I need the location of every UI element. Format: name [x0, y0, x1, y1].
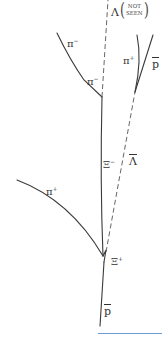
label-xi-plus: Ξ+	[111, 256, 123, 267]
label-antiproton-right: p	[152, 59, 159, 70]
track-pi-minus	[57, 33, 102, 97]
track-antilambda	[106, 92, 135, 252]
track-pi-plus-left	[17, 180, 103, 256]
label-pi-plus-left: π+	[46, 186, 58, 197]
label-xi-minus: Ξ−	[103, 159, 115, 170]
not-text: NOT	[126, 3, 143, 10]
track-antiproton-right	[135, 35, 153, 92]
label-antiproton-incoming: p	[104, 306, 111, 317]
left-paren: (	[120, 1, 125, 19]
bottom-rule	[98, 333, 162, 334]
track-lambda-not-seen	[102, 0, 108, 97]
label-lambda: Λ	[111, 7, 119, 18]
event-diagram	[0, 0, 162, 340]
track-pi-plus-right	[135, 35, 139, 92]
label-not-seen: ( NOT SEEN )	[119, 1, 150, 19]
label-antilambda: Λ	[129, 156, 137, 167]
track-xi-minus	[101, 97, 103, 256]
label-pi-minus-lower: π−	[87, 76, 99, 87]
right-paren: )	[144, 1, 149, 19]
seen-text: SEEN	[126, 10, 143, 17]
label-pi-plus-right: π+	[123, 55, 135, 66]
label-pi-minus-upper: π−	[67, 38, 79, 49]
